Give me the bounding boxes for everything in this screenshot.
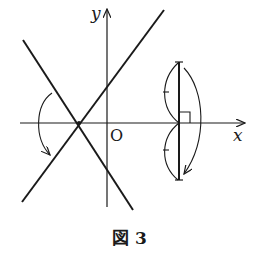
upper-half-arc xyxy=(165,63,179,123)
intersection-point xyxy=(77,121,81,125)
right-angle-mark xyxy=(179,112,190,123)
x-axis-label: x xyxy=(233,125,243,145)
rotation-arrow-icon xyxy=(39,93,52,155)
origin-label: O xyxy=(110,126,123,145)
figure-caption: 図 3 xyxy=(0,224,259,249)
flip-arrow-icon xyxy=(184,68,201,174)
line-ascending xyxy=(22,10,164,202)
y-axis-label: y xyxy=(90,3,101,23)
lower-half-arc xyxy=(165,123,179,180)
figure-canvas: y x O xyxy=(0,0,259,253)
